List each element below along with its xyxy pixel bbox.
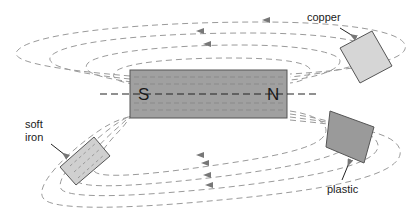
north-pole-label: N — [267, 85, 279, 104]
soft-iron-block — [60, 137, 110, 185]
arrow-icon — [196, 28, 204, 34]
bar-magnet — [130, 70, 287, 118]
magnet-diagram: S N copper plastic soft iron — [0, 0, 413, 223]
plastic-block — [326, 111, 374, 163]
copper-pointer — [340, 28, 353, 36]
soft-iron-label-line2: iron — [25, 131, 43, 143]
soft-iron-pointer — [51, 144, 65, 155]
arrow-icon — [205, 182, 213, 188]
arrow-icon — [201, 160, 209, 166]
plastic-pointer — [342, 163, 349, 180]
arrow-icon — [196, 152, 204, 158]
plastic-label: plastic — [327, 183, 359, 195]
copper-label: copper — [307, 11, 341, 23]
arrow-icon — [203, 172, 211, 178]
south-pole-label: S — [138, 85, 149, 104]
copper-block — [340, 31, 392, 83]
soft-iron-label-line1: soft — [25, 118, 43, 130]
